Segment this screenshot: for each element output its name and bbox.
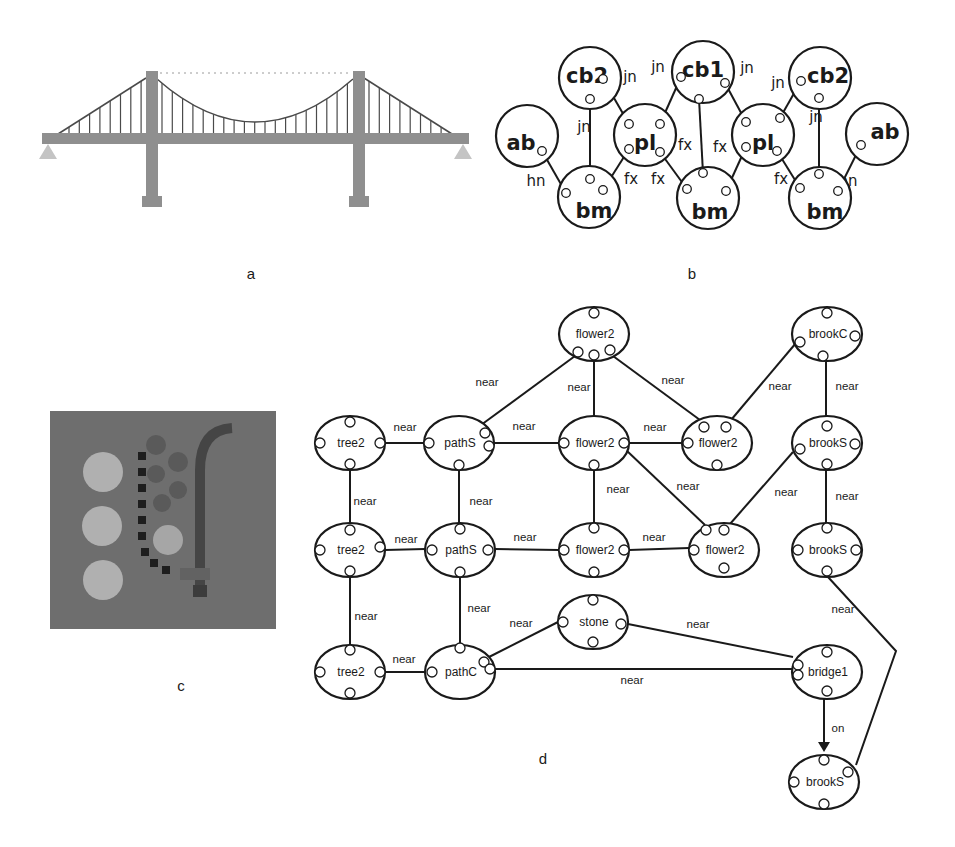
component-port <box>599 186 608 195</box>
scene-port <box>589 308 599 318</box>
scene-port <box>345 566 355 576</box>
scene-port <box>345 645 355 655</box>
bridge-support-right <box>454 144 472 159</box>
scene-node-pathC: pathC <box>425 643 495 699</box>
scene-path-dot <box>138 452 146 460</box>
component-node-ab_r: ab <box>846 103 908 165</box>
scene-port <box>701 525 711 535</box>
scene-port <box>455 524 465 534</box>
bridge-tower-right <box>353 71 365 201</box>
component-node-label: bm <box>692 200 729 224</box>
scene-edge-label: near <box>354 610 377 622</box>
scene-node-label: pathS <box>444 436 475 450</box>
caption-b: b <box>688 265 696 282</box>
scene-path-dot <box>138 516 146 524</box>
scene-port <box>719 525 729 535</box>
component-edge-label: jn <box>739 59 754 77</box>
component-port <box>562 189 571 198</box>
scene-node-label: flower2 <box>699 436 738 450</box>
scene-port <box>850 331 860 341</box>
component-node-cb2_l: cb2 <box>559 47 621 109</box>
component-node-label: cb1 <box>682 58 724 82</box>
scene-port <box>345 417 355 427</box>
component-edge-label: fx <box>713 138 727 156</box>
scene-port <box>793 660 803 670</box>
scene-edge-label: near <box>676 480 699 492</box>
scene-port <box>485 664 495 674</box>
scene-node-label: brookS <box>809 543 847 557</box>
scene-node-flower2_1r: flower2 <box>682 416 752 470</box>
component-port <box>625 120 634 129</box>
scene-port <box>589 460 599 470</box>
scene-port <box>345 688 355 698</box>
component-port <box>656 120 665 129</box>
scene-port <box>375 667 385 677</box>
scene-node-label: tree2 <box>337 436 365 450</box>
scene-port <box>619 438 629 448</box>
scene-port <box>721 422 731 432</box>
scene-port <box>822 686 832 696</box>
scene-edge-label: near <box>606 483 629 495</box>
scene-port <box>850 439 860 449</box>
caption-c: c <box>177 677 185 694</box>
scene-edge-label: near <box>642 531 665 543</box>
scene-edge <box>481 356 575 425</box>
scene-port <box>616 619 626 629</box>
bridge-main-cable-right <box>364 78 452 134</box>
scene-port <box>822 308 832 318</box>
scene-path-dot <box>138 484 146 492</box>
scene-port <box>559 545 569 555</box>
component-node-label: pl <box>752 131 774 155</box>
component-edge-label: jn <box>650 58 665 76</box>
component-port <box>742 143 751 152</box>
scene-port <box>789 777 799 787</box>
component-node-cb2_r: cb2 <box>789 47 851 109</box>
bridge-main-cable-left <box>58 78 146 134</box>
component-port <box>538 147 547 156</box>
scene-port <box>843 767 853 777</box>
scene-port <box>558 617 568 627</box>
component-port <box>586 95 595 104</box>
component-edge-label: hn <box>526 172 545 190</box>
component-node-label: pl <box>634 131 656 155</box>
scene-node-bridge1: bridge1 <box>792 645 862 699</box>
component-edge-label: jn <box>576 118 591 136</box>
panel-a-bridge <box>39 71 472 207</box>
component-port <box>599 75 608 84</box>
scene-port <box>793 545 803 555</box>
scene-node-label: brookS <box>806 775 844 789</box>
component-edge-label: fx <box>624 170 638 188</box>
scene-stones <box>82 452 123 600</box>
scene-edge-label: near <box>774 486 797 498</box>
scene-node-flower2_top: flower2 <box>559 307 629 361</box>
scene-node-label: bridge1 <box>808 665 848 679</box>
component-port <box>742 118 751 127</box>
scene-path-dot <box>138 500 146 508</box>
component-port <box>625 145 634 154</box>
bridge-tower-left <box>146 71 158 201</box>
scene-edge-label: near <box>686 618 709 630</box>
scene-port <box>589 567 599 577</box>
scene-edge-label: near <box>469 495 492 507</box>
component-port <box>857 141 866 150</box>
scene-port <box>455 643 465 653</box>
scene-node-tree2_1: tree2 <box>315 416 385 470</box>
scene-edge-label: near <box>768 380 791 392</box>
component-node-pl_r: pl <box>732 104 794 166</box>
component-node-label: cb2 <box>807 64 849 88</box>
scene-node-pathS_2: pathS <box>425 523 495 577</box>
component-node-bm_m: bm <box>677 167 739 229</box>
scene-port <box>345 459 355 469</box>
bridge-hangers <box>69 81 451 134</box>
scene-brook-end <box>193 585 207 597</box>
scene-edge-label: near <box>661 374 684 386</box>
caption-d: d <box>539 750 547 767</box>
component-port <box>796 184 805 193</box>
scene-port <box>795 444 805 454</box>
component-port <box>722 187 731 196</box>
component-edge-label: jn <box>622 68 637 86</box>
scene-node-label: pathS <box>445 543 476 557</box>
bridge-main-cable-center <box>157 79 353 122</box>
scene-port <box>375 542 385 552</box>
bridge-support-left <box>39 144 57 159</box>
